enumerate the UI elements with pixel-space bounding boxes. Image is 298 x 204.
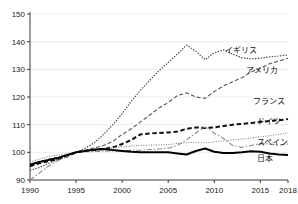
series-line-3 bbox=[30, 133, 288, 162]
index-line-chart: 90100110120130140150 1990199520002005201… bbox=[0, 0, 298, 204]
x-tick-label-2005: 2005 bbox=[159, 186, 177, 195]
series-label-2: フランス bbox=[253, 97, 285, 106]
series-inline-labels: イギリスアメリカフランスドイツスペイン日本 bbox=[225, 46, 287, 163]
x-axis-tick-labels: 1990199520002005201020152018 bbox=[21, 186, 297, 195]
series-label-1: アメリカ bbox=[246, 66, 278, 75]
x-tick-label-2018: 2018 bbox=[279, 186, 297, 195]
x-tick-label-2010: 2010 bbox=[205, 186, 223, 195]
series-line-4 bbox=[30, 127, 288, 180]
y-tick-label-120: 120 bbox=[12, 93, 26, 102]
series-label-3: ドイツ bbox=[257, 117, 281, 126]
x-tick-label-2000: 2000 bbox=[113, 186, 131, 195]
series-label-5: 日本 bbox=[257, 153, 273, 163]
series-label-0: イギリス bbox=[225, 46, 257, 55]
y-tick-label-110: 110 bbox=[12, 121, 25, 130]
y-tick-label-130: 130 bbox=[12, 65, 26, 74]
x-tick-label-1990: 1990 bbox=[21, 186, 39, 195]
x-tick-label-1995: 1995 bbox=[67, 186, 85, 195]
series-line-2 bbox=[30, 119, 288, 166]
x-tick-label-2015: 2015 bbox=[251, 186, 269, 195]
y-tick-label-140: 140 bbox=[12, 38, 26, 47]
y-axis-tick-labels: 90100110120130140150 bbox=[12, 10, 26, 185]
chart-canvas: 90100110120130140150 1990199520002005201… bbox=[0, 0, 298, 204]
series-label-4: スペイン bbox=[257, 138, 288, 147]
y-tick-label-90: 90 bbox=[16, 176, 25, 185]
y-tick-label-100: 100 bbox=[12, 148, 26, 157]
y-tick-label-150: 150 bbox=[12, 10, 26, 19]
gridlines bbox=[30, 14, 288, 152]
